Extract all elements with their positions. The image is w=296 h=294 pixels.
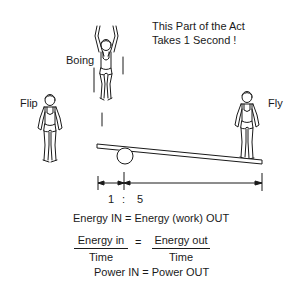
fraction-energy-out: Energy out Time: [152, 234, 210, 264]
ratio-right: 5: [137, 193, 143, 206]
power-equation: Power IN = Power OUT: [94, 266, 209, 279]
fraction-numerator: Energy in: [74, 234, 128, 249]
fly-figure: [235, 92, 259, 160]
caption-line-1: This Part of the Act: [152, 20, 245, 33]
flip-label: Flip: [20, 97, 38, 110]
energy-equation: Energy IN = Energy (work) OUT: [73, 212, 229, 225]
ratio-separator: :: [122, 193, 125, 206]
ratio-left: 1: [108, 193, 114, 206]
fraction-denominator: Time: [74, 249, 128, 264]
caption-line-2: Takes 1 Second !: [152, 34, 236, 47]
boing-label: Boing: [66, 54, 94, 67]
equals-sign: =: [135, 236, 141, 249]
seesaw-illustration: [0, 0, 296, 294]
ratio-dimension-line: [98, 172, 262, 191]
flip-figure: [38, 95, 62, 163]
fulcrum-ball: [117, 148, 133, 164]
fraction-denominator: Time: [152, 249, 210, 264]
fraction-numerator: Energy out: [152, 234, 210, 249]
boing-figure: [95, 26, 118, 100]
fly-label: Fly: [268, 97, 283, 110]
fraction-energy-in: Energy in Time: [74, 234, 128, 264]
